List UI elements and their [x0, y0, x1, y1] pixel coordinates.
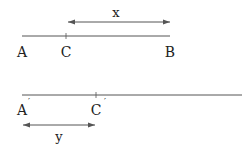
bottom-segment-group: A ′ C ′ y [16, 92, 242, 144]
point-label-a: A [16, 44, 28, 60]
top-segment-group: x A C B [16, 5, 175, 60]
point-label-c-prime: C [91, 102, 102, 118]
point-label-a-prime: A [16, 102, 28, 118]
point-label-b: B [165, 44, 175, 60]
measure-label-x: x [112, 5, 120, 20]
prime-mark-c: ′ [104, 97, 106, 107]
prime-mark-a: ′ [28, 97, 30, 107]
measure-label-y: y [54, 129, 63, 144]
point-label-c: C [61, 44, 72, 60]
segment-diagram: x A C B A ′ C ′ y [0, 0, 247, 150]
